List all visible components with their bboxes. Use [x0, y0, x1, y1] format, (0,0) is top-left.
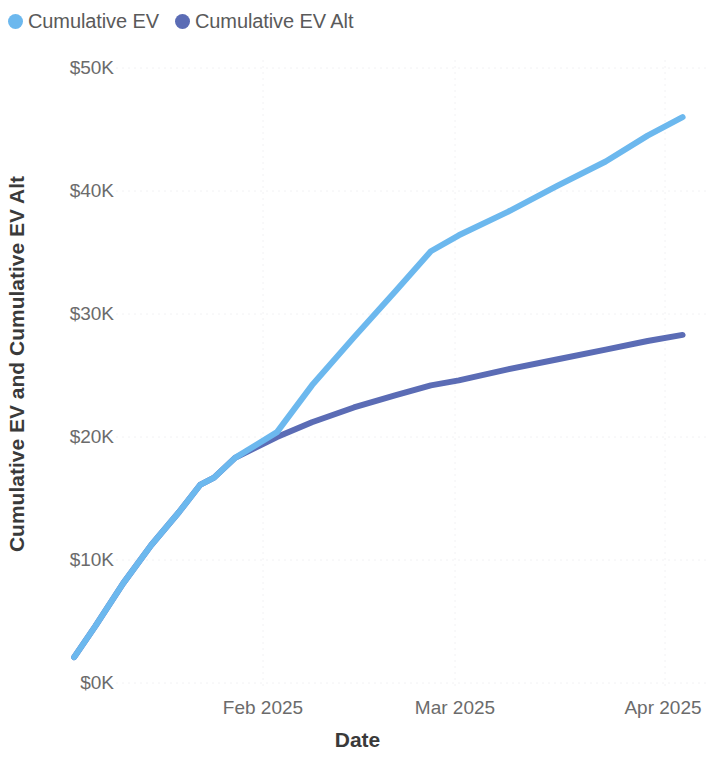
series-line-cumulative-ev — [74, 117, 682, 657]
plot-area — [0, 0, 715, 758]
series-line-cumulative-ev-alt — [74, 335, 682, 657]
chart-container: Cumulative EV Cumulative EV Alt Cumulati… — [0, 0, 715, 758]
